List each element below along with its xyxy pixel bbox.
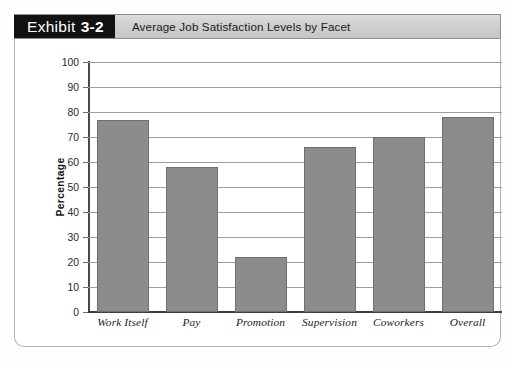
bar — [373, 137, 425, 312]
bar — [304, 147, 356, 312]
exhibit-title: Average Job Satisfaction Levels by Facet — [132, 20, 350, 33]
exhibit-title-strip: Average Job Satisfaction Levels by Facet — [115, 15, 500, 38]
bar — [97, 120, 149, 313]
exhibit-number: 3-2 — [81, 18, 104, 36]
x-axis-label-text: Supervision — [302, 316, 357, 328]
bar-slot — [304, 62, 356, 312]
bar — [235, 257, 287, 312]
y-axis-tick-label: 90 — [67, 82, 79, 93]
chart-frame: 0102030405060708090100 Percentage Work I… — [14, 39, 501, 347]
y-axis-tick-label: 70 — [67, 132, 79, 143]
x-axis-labels: Work ItselfPayPromotionSupervisionCowork… — [88, 316, 502, 344]
x-axis-label: Coworkers — [364, 316, 433, 328]
y-axis-tick-label: 100 — [62, 57, 79, 68]
x-axis-label-text: Coworkers — [373, 316, 424, 328]
y-axis-tick — [83, 312, 88, 313]
bar-slot — [235, 62, 287, 312]
x-axis-label: Pay — [157, 316, 226, 328]
x-axis-label-text: Overall — [450, 316, 486, 328]
y-axis-title: Percentage — [55, 158, 66, 217]
x-axis-label: Work Itself — [88, 316, 157, 328]
bar-series — [88, 62, 502, 312]
x-axis-label-text: Work Itself — [97, 316, 147, 328]
x-axis-label: Supervision — [295, 316, 364, 328]
y-axis-tick-label: 40 — [67, 207, 79, 218]
y-axis-tick-label: 50 — [67, 182, 79, 193]
x-axis-label-highlight: Pay — [179, 316, 203, 328]
bar-slot — [97, 62, 149, 312]
exhibit-label: Exhibit — [27, 18, 76, 36]
x-axis-label: Overall — [433, 316, 502, 328]
x-axis-label: Promotion — [226, 316, 295, 328]
y-axis-tick-label: 10 — [67, 282, 79, 293]
bar-slot — [442, 62, 494, 312]
x-axis-label-text: Pay — [182, 316, 200, 328]
bar — [166, 167, 218, 312]
bar — [442, 117, 494, 312]
x-axis-label-text: Promotion — [236, 316, 285, 328]
plot-area: 0102030405060708090100 Percentage — [88, 62, 502, 312]
exhibit-header: Exhibit 3-2 Average Job Satisfaction Lev… — [14, 14, 501, 39]
exhibit-tag: Exhibit 3-2 — [14, 15, 115, 38]
y-axis-tick-label: 30 — [67, 232, 79, 243]
y-axis-tick-label: 20 — [67, 257, 79, 268]
bar-slot — [373, 62, 425, 312]
y-axis-tick-label: 60 — [67, 157, 79, 168]
exhibit-figure: Exhibit 3-2 Average Job Satisfaction Lev… — [0, 0, 513, 369]
x-axis-label-highlight: Coworkers — [370, 316, 427, 328]
y-axis-tick-label: 80 — [67, 107, 79, 118]
x-axis-label-highlight: Overall — [447, 316, 489, 328]
x-axis-label-highlight: Supervision — [299, 316, 360, 328]
bar-slot — [166, 62, 218, 312]
x-axis-label-highlight: Promotion — [233, 316, 288, 328]
x-axis-label-highlight: Work Itself — [94, 316, 150, 328]
y-axis-tick-label: 0 — [73, 307, 79, 318]
